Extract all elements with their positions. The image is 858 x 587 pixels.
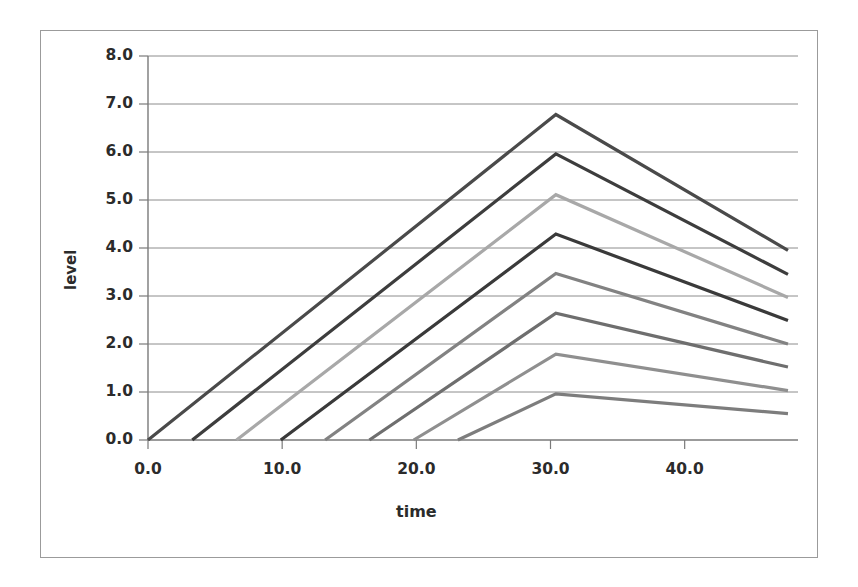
y-tick-label: 7.0 xyxy=(81,94,133,112)
y-tick-label: 4.0 xyxy=(81,238,133,256)
y-tick-label: 0.0 xyxy=(81,430,133,448)
y-tick-label: 8.0 xyxy=(81,46,133,64)
y-tick-label: 1.0 xyxy=(81,382,133,400)
y-tick-label: 2.0 xyxy=(81,334,133,352)
x-axis-title: time xyxy=(316,502,516,521)
x-tick-label: 40.0 xyxy=(655,460,715,478)
x-tick-label: 10.0 xyxy=(252,460,312,478)
y-tick-label: 5.0 xyxy=(81,190,133,208)
y-tick-label: 6.0 xyxy=(81,142,133,160)
y-axis-title: level xyxy=(62,250,80,290)
chart-frame xyxy=(40,30,818,558)
x-tick-label: 20.0 xyxy=(386,460,446,478)
x-tick-label: 30.0 xyxy=(521,460,581,478)
y-tick-label: 3.0 xyxy=(81,286,133,304)
x-tick-label: 0.0 xyxy=(118,460,178,478)
